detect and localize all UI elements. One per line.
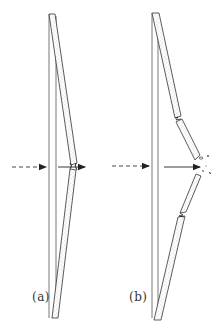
panel-b — [112, 13, 211, 320]
crack-upper-b — [175, 117, 181, 120]
panel-label-a: (a) — [32, 290, 50, 304]
panel-a — [12, 14, 85, 318]
reference-plate-b — [152, 13, 158, 318]
reference-plate-a — [49, 14, 56, 318]
upper-fragment-b — [176, 119, 200, 160]
upper-strip-a — [49, 14, 77, 165]
panel-label-b: (b) — [129, 290, 148, 304]
lower-strip-b — [154, 216, 185, 320]
upper-strip-b — [152, 13, 181, 118]
lower-fragment-b — [180, 174, 201, 213]
diagram-canvas — [0, 0, 224, 329]
debris-b — [199, 155, 211, 174]
